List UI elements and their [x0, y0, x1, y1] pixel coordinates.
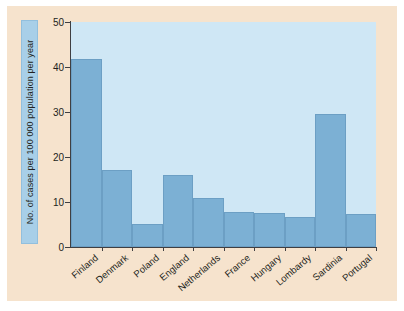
bar-france[interactable] [224, 212, 255, 247]
x-tick-mark [285, 247, 286, 251]
x-tick-mark [346, 247, 347, 251]
y-tick-label: 40 [42, 62, 64, 73]
x-tick-mark [254, 247, 255, 251]
y-tick-label-group: 01020304050 [38, 0, 64, 311]
x-tick-mark [315, 247, 316, 251]
y-tick-mark [65, 247, 70, 248]
plot-area [71, 22, 376, 247]
bar-poland[interactable] [132, 224, 163, 247]
y-tick-mark [65, 157, 70, 158]
y-axis-line [70, 21, 71, 248]
y-tick-label: 0 [42, 242, 64, 253]
x-tick-mark [376, 247, 377, 251]
y-tick-mark [65, 112, 70, 113]
y-tick-label: 50 [42, 17, 64, 28]
y-tick-mark [65, 67, 70, 68]
y-tick-mark [65, 202, 70, 203]
bar-lombardy[interactable] [285, 217, 316, 247]
x-tick-mark [224, 247, 225, 251]
bar-netherlands[interactable] [193, 198, 224, 247]
y-tick-mark [65, 22, 70, 23]
bar-finland[interactable] [71, 59, 102, 247]
y-axis-label: No. of cases per 100 000 population per … [25, 40, 35, 225]
bar-sardinia[interactable] [315, 114, 346, 247]
x-tick-mark [132, 247, 133, 251]
x-tick-mark [102, 247, 103, 251]
y-tick-label: 20 [42, 152, 64, 163]
figure-container: No. of cases per 100 000 population per … [0, 0, 404, 311]
bar-hungary[interactable] [254, 213, 285, 247]
y-tick-label: 30 [42, 107, 64, 118]
y-tick-label: 10 [42, 197, 64, 208]
x-tick-mark [163, 247, 164, 251]
x-tick-mark [193, 247, 194, 251]
y-axis-label-plate: No. of cases per 100 000 population per … [21, 20, 38, 244]
bar-portugal[interactable] [346, 214, 377, 247]
bar-england[interactable] [163, 175, 194, 247]
bar-denmark[interactable] [102, 170, 133, 247]
